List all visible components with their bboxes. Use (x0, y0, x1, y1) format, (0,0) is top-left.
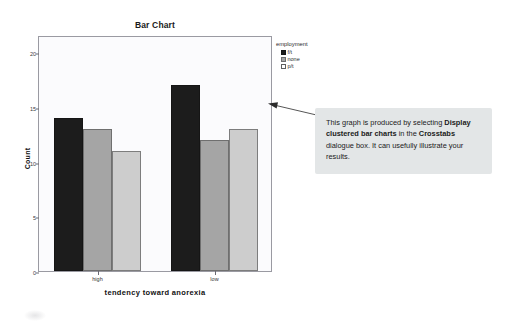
x-tick-mark (215, 271, 216, 275)
y-axis-label: Count (24, 148, 31, 170)
legend-item-label: f/t (288, 50, 293, 56)
legend: employment f/t none p/t (276, 41, 328, 71)
annotation-bold-2: Crosstabs (419, 129, 455, 138)
legend-swatch-icon (281, 57, 286, 62)
y-tick-mark (36, 109, 39, 110)
y-tick-mark (36, 273, 39, 274)
legend-item-label: p/t (288, 64, 294, 70)
bar-low-p/t (229, 129, 258, 271)
bar-low-none (200, 140, 229, 271)
annotation-text-3: dialogue box. It can usefully illustrate… (326, 141, 463, 161)
legend-item-pt: p/t (281, 64, 328, 70)
plot-frame: 05101520highlow Count (38, 36, 272, 272)
annotation-callout: This graph is produced by selecting Disp… (315, 108, 492, 174)
bar-low-f/t (171, 85, 200, 271)
x-tick-mark (98, 271, 99, 275)
y-tick-mark (36, 218, 39, 219)
legend-title: employment (276, 41, 328, 47)
page-title: Bar Chart (38, 20, 272, 30)
legend-swatch-icon (281, 50, 286, 55)
y-tick-mark (36, 54, 39, 55)
annotation-text-1: This graph is produced by selecting (326, 118, 444, 127)
scan-artifact (24, 310, 46, 321)
legend-swatch-icon (281, 64, 286, 69)
bar-high-none (83, 129, 112, 271)
y-tick-mark (36, 163, 39, 164)
x-tick-label: low (210, 276, 218, 282)
bar-chart-figure: Bar Chart 05101520highlow Count tendency… (0, 0, 511, 328)
x-axis-label: tendency toward anorexia (38, 288, 272, 297)
legend-item-label: none (288, 57, 300, 63)
bar-high-f/t (54, 118, 83, 271)
bar-high-p/t (112, 151, 141, 271)
legend-item-none: none (281, 57, 328, 63)
x-tick-label: high (92, 276, 102, 282)
legend-item-ft: f/t (281, 50, 328, 56)
annotation-text-2: in the (397, 129, 419, 138)
plot-area: 05101520highlow (39, 37, 271, 271)
